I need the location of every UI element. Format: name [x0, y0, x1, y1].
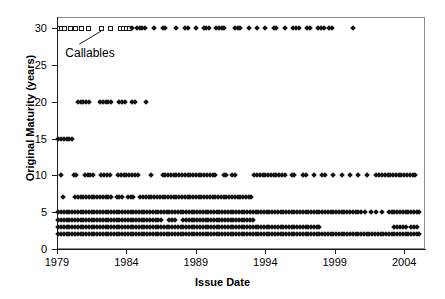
x-tick-label: 1989	[166, 257, 226, 268]
x-axis-line	[57, 249, 426, 250]
callable-marker	[68, 26, 73, 31]
x-tick-label: 2004	[374, 257, 434, 268]
y-tick-label: 5	[0, 207, 47, 218]
callables-annotation-label: Callables	[65, 46, 114, 60]
callable-marker	[86, 26, 91, 31]
scatter-chart-figure: 051015202530 197919841989199419992004 Ca…	[0, 0, 445, 299]
callable-marker	[62, 26, 67, 31]
callable-marker	[108, 26, 113, 31]
x-tick-mark	[196, 249, 197, 254]
callable-marker	[79, 26, 84, 31]
x-tick-mark	[126, 249, 127, 254]
x-axis-title: Issue Date	[0, 276, 445, 288]
x-tick-mark	[404, 249, 405, 254]
y-tick-mark	[52, 175, 57, 176]
x-tick-label: 1994	[235, 257, 295, 268]
x-tick-mark	[335, 249, 336, 254]
y-tick-label: 0	[0, 244, 47, 255]
callable-marker	[99, 26, 104, 31]
y-axis-title: Original Maturity (years)	[24, 28, 36, 208]
callable-marker	[73, 26, 78, 31]
y-tick-mark	[52, 65, 57, 66]
x-tick-label: 1999	[305, 257, 365, 268]
x-tick-mark	[265, 249, 266, 254]
x-tick-mark	[57, 249, 58, 254]
y-tick-mark	[52, 102, 57, 103]
x-tick-label: 1979	[27, 257, 87, 268]
x-tick-label: 1984	[96, 257, 156, 268]
